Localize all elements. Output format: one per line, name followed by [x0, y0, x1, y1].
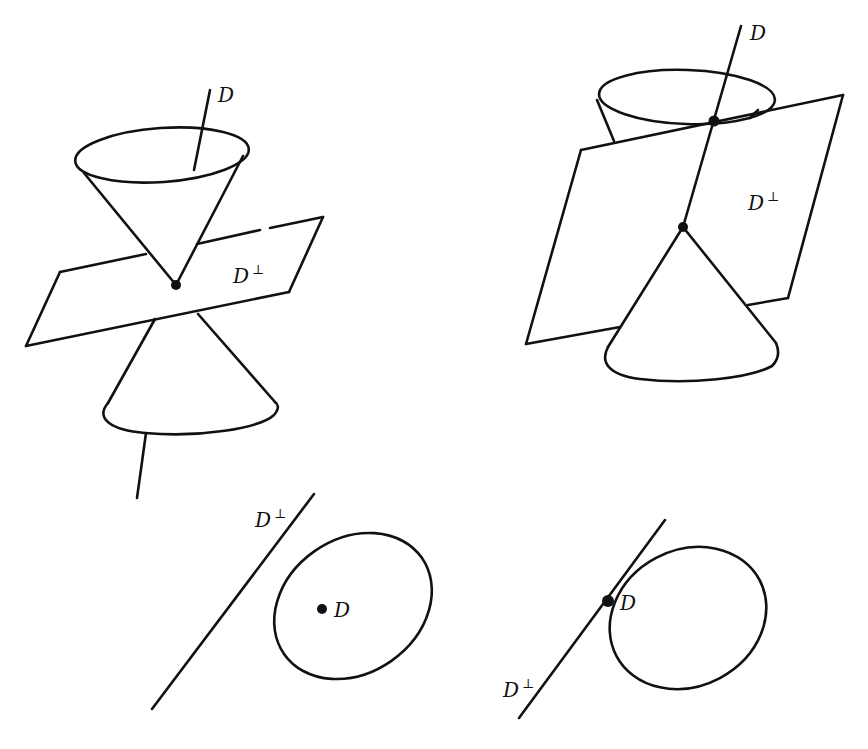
- upper-cone: [597, 67, 776, 141]
- line-label-d-perp: D⊥: [502, 676, 534, 702]
- point-label-d: D: [619, 591, 636, 615]
- line-d-perp: [519, 520, 665, 718]
- point-d: [317, 604, 327, 614]
- ellipse: [246, 503, 460, 709]
- line-label-d-perp: D⊥: [254, 506, 286, 532]
- line-d-perp: [152, 494, 314, 709]
- plane-label-d-perp: D⊥: [747, 189, 779, 215]
- tangent-point: [709, 116, 720, 127]
- point-label-d: D: [333, 598, 350, 622]
- vertex-point: [678, 222, 688, 232]
- axis-label-d: D: [749, 21, 766, 45]
- upper-cone: [73, 90, 250, 285]
- vertex-point: [171, 280, 181, 290]
- panel-top-right: D D⊥: [526, 21, 843, 381]
- panel-bottom-right: D D⊥: [502, 520, 791, 718]
- plane-label-d-perp: D⊥: [232, 262, 264, 288]
- tangent-point-d: [602, 595, 614, 607]
- axis-label-d: D: [217, 83, 234, 107]
- lower-cone: [103, 314, 278, 498]
- panel-top-left: D D⊥: [26, 83, 323, 498]
- conic-diagram: D D⊥ D D⊥: [0, 0, 868, 749]
- panel-bottom-left: D⊥ D: [152, 494, 460, 709]
- ellipse: [585, 520, 792, 716]
